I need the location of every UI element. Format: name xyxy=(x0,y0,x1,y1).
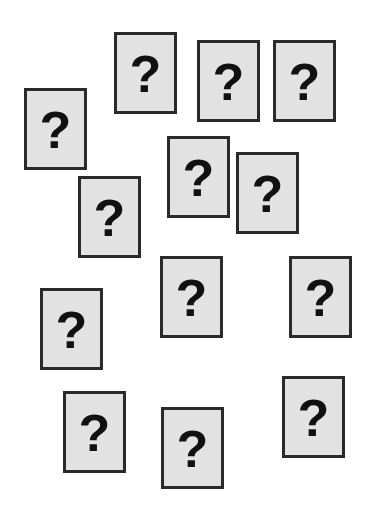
question-card[interactable]: ? xyxy=(40,288,103,370)
question-mark-icon: ? xyxy=(94,192,126,244)
question-mark-icon: ? xyxy=(298,392,330,444)
question-card[interactable]: ? xyxy=(161,407,224,489)
question-card[interactable]: ? xyxy=(167,136,230,218)
question-mark-icon: ? xyxy=(213,56,245,108)
question-card[interactable]: ? xyxy=(236,152,299,234)
question-mark-icon: ? xyxy=(40,104,72,156)
question-card[interactable]: ? xyxy=(24,88,87,170)
question-mark-icon: ? xyxy=(177,423,209,475)
question-mark-icon: ? xyxy=(305,272,337,324)
question-mark-icon: ? xyxy=(252,168,284,220)
question-card[interactable]: ? xyxy=(289,256,352,338)
question-card[interactable]: ? xyxy=(197,40,260,122)
question-mark-icon: ? xyxy=(56,304,88,356)
question-mark-icon: ? xyxy=(176,272,208,324)
question-card[interactable]: ? xyxy=(282,376,345,458)
question-card[interactable]: ? xyxy=(160,256,223,338)
question-card[interactable]: ? xyxy=(78,176,141,258)
question-mark-icon: ? xyxy=(130,48,162,100)
question-mark-icon: ? xyxy=(183,152,215,204)
question-card[interactable]: ? xyxy=(63,391,126,473)
question-card[interactable]: ? xyxy=(114,32,177,114)
question-mark-icon: ? xyxy=(79,407,111,459)
question-mark-icon: ? xyxy=(289,56,321,108)
question-card[interactable]: ? xyxy=(273,40,336,122)
